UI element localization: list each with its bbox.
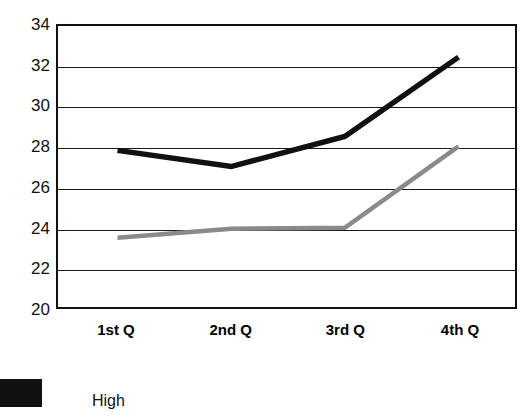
series-line [117, 57, 458, 166]
series-layer [58, 26, 515, 307]
line-chart-figure: 2022242628303234 1st Q2nd Q3rd Q4th Q Hi… [0, 0, 527, 420]
x-axis: 1st Q2nd Q3rd Q4th Q [56, 322, 517, 348]
chart-legend: High [0, 377, 527, 420]
x-tick-label: 2nd Q [209, 322, 252, 339]
y-tick-label: 26 [4, 178, 50, 195]
legend-swatch-icon [0, 379, 42, 407]
y-axis: 2022242628303234 [0, 0, 50, 420]
y-tick-label: 34 [4, 16, 50, 33]
y-tick-label: 20 [4, 301, 50, 318]
y-tick-label: 22 [4, 260, 50, 277]
legend-entry[interactable]: High [0, 377, 125, 409]
y-tick-label: 28 [4, 138, 50, 155]
y-tick-label: 24 [4, 219, 50, 236]
x-tick-label: 4th Q [441, 322, 479, 339]
y-tick-label: 32 [4, 56, 50, 73]
x-tick-label: 3rd Q [326, 322, 365, 339]
y-tick-label: 30 [4, 97, 50, 114]
x-tick-label: 1st Q [97, 322, 135, 339]
legend-label: High [92, 393, 125, 409]
plot-area [56, 24, 517, 309]
